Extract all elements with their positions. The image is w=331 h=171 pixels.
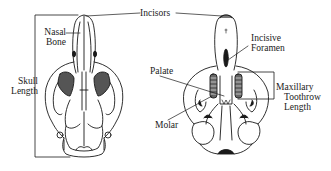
label-incisors: Incisors — [140, 8, 170, 18]
incisive-foramen-pointer — [228, 46, 248, 60]
label-maxillary-toothrow-length: Maxillary Toothrow Length — [276, 82, 321, 112]
label-nasal-bone: Nasal Bone — [38, 27, 66, 47]
label-length: Length — [0, 86, 38, 96]
label-toothrow: Toothrow — [276, 92, 321, 102]
label-length-2: Length — [276, 102, 321, 112]
label-incisive-foramen: Incisive Foramen — [251, 33, 285, 53]
skull-diagram: Incisors Nasal Bone Skull Length Incisiv… — [0, 0, 331, 171]
incisors-pointer — [86, 13, 140, 16]
label-skull: Skull — [0, 76, 38, 86]
label-skull-length: Skull Length — [0, 76, 38, 96]
label-nasal: Nasal — [38, 27, 66, 37]
label-incisive: Incisive — [251, 33, 285, 43]
label-palate: Palate — [150, 66, 173, 76]
label-foramen: Foramen — [251, 43, 285, 53]
label-maxillary: Maxillary — [276, 82, 321, 92]
incisors-pointer-right — [176, 13, 222, 16]
label-molar: Molar — [155, 120, 178, 130]
label-bone: Bone — [38, 37, 66, 47]
